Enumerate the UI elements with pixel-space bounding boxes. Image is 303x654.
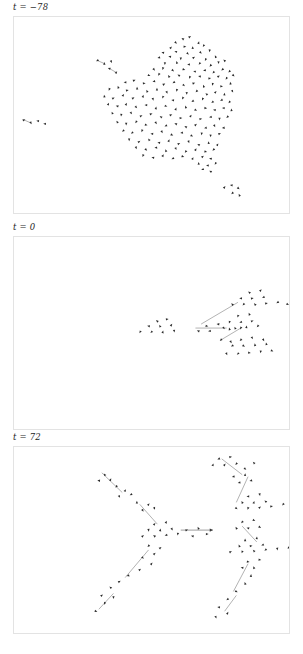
agent-marker [177,143,180,145]
agent-marker [197,330,200,332]
agent-marker [112,97,115,99]
agent-marker [171,69,174,72]
agent-marker [184,45,187,47]
agent-marker [161,331,163,334]
agent-marker [199,51,202,54]
agent-marker [265,303,268,305]
plot-panel-t-minus-78[interactable] [13,16,290,214]
agent-marker [137,141,140,143]
agent-marker [197,144,200,146]
agent-marker [165,91,167,94]
agent-marker [189,76,191,79]
agent-marker [147,503,150,506]
agent-marker [132,97,135,99]
agent-marker [139,330,141,333]
agent-marker [118,581,121,583]
agent-marker [143,82,146,84]
agent-marker [230,82,232,85]
agent-marker [180,117,183,119]
agent-marker [147,325,150,327]
agent-marker [208,141,210,144]
agent-marker [220,85,223,87]
agent-marker [204,107,207,109]
agent-marker [247,527,250,529]
agent-marker [116,105,119,107]
agent-marker [170,528,172,531]
agent-marker [251,320,254,322]
agent-marker [150,113,153,115]
agent-marker [148,544,151,547]
agent-marker [229,551,232,553]
agent-marker [159,325,161,328]
agent-marker [260,350,262,353]
panel-label-0: t = −78 [13,2,48,13]
connector-line [222,459,242,475]
agent-marker [254,343,256,346]
agent-marker [170,133,173,135]
agent-marker [109,586,112,589]
agent-marker [148,139,151,142]
agent-marker [133,80,136,82]
agent-marker [142,154,144,157]
agent-marker [180,131,183,133]
agent-marker [142,95,144,98]
agent-marker [185,106,187,109]
agent-marker [162,84,165,86]
agent-marker [120,114,122,117]
plot-panel-t-0[interactable] [13,236,290,430]
agent-marker [162,96,164,99]
agent-marker [239,194,241,197]
agent-marker [108,68,111,70]
agent-marker [209,49,211,52]
agent-marker [196,90,199,93]
agent-marker [198,162,200,165]
agent-marker [236,527,238,530]
agent-marker [158,73,160,76]
agent-marker [237,187,240,190]
agent-marker [189,115,191,118]
agent-marker [239,297,242,299]
agent-marker [249,479,252,481]
agent-marker [253,462,256,465]
agent-marker [262,296,265,298]
agent-marker [125,103,127,106]
agent-marker [240,326,242,329]
agent-marker [96,59,99,61]
agent-marker [258,493,260,496]
panel-block-0: t = −78 [0,0,303,220]
agent-marker [168,75,170,78]
connector-line [109,68,116,72]
agent-marker [197,41,199,44]
panel-label-1: t = 0 [13,222,35,233]
agent-marker [235,590,238,592]
agent-marker [201,156,204,159]
agent-marker [250,574,252,577]
panel-block-1: t = 0 [0,220,303,430]
agent-marker [231,90,233,93]
agent-marker [199,62,202,65]
agent-marker [151,157,154,159]
agent-marker [191,157,193,160]
agent-marker [152,80,155,82]
agent-marker [230,109,232,112]
agent-marker [173,81,176,83]
agent-marker [235,462,238,465]
agent-marker [141,129,143,132]
agent-marker [229,321,231,324]
agent-marker [144,148,147,151]
agent-marker [116,121,118,124]
agent-marker [240,338,243,341]
agent-marker [161,52,164,54]
agent-marker [43,123,46,125]
agent-marker [165,521,167,524]
agent-marker [282,503,285,506]
agent-marker [258,526,261,528]
agent-marker [94,610,97,612]
agent-marker [237,352,240,355]
agent-marker [182,97,184,100]
plot-panel-t-72[interactable] [13,446,290,634]
agent-marker [235,507,238,510]
agent-marker [231,192,234,195]
agent-marker [154,121,156,124]
agent-marker [164,105,167,107]
